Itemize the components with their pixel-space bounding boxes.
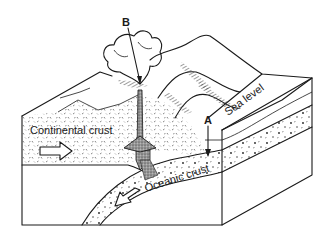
pointer-a: A bbox=[204, 114, 212, 157]
front-face bbox=[22, 95, 222, 225]
sea-level-label: Sea level bbox=[222, 81, 266, 117]
right-face-oceanic-layer bbox=[222, 105, 312, 172]
continental-crust-label: Continental crust bbox=[30, 124, 113, 136]
label-a: A bbox=[204, 114, 212, 126]
mountain-ridge bbox=[150, 35, 312, 78]
subduction-diagram: B A Continental crust Sea level Oceanic … bbox=[0, 0, 330, 238]
label-b: B bbox=[122, 16, 130, 28]
